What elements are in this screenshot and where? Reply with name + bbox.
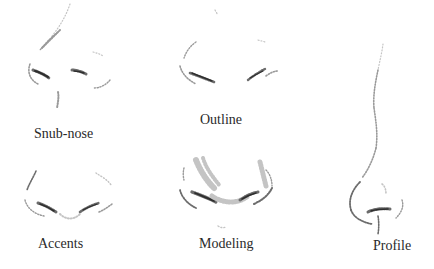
accents-drawing <box>25 171 112 219</box>
modeling-label: Modeling <box>199 237 253 251</box>
outline-drawing <box>180 10 278 84</box>
outline-label: Outline <box>200 113 242 127</box>
nose-sketch-figure: Snub-nose Outline Accents Modeling Profi… <box>0 0 434 269</box>
snub-nose-drawing <box>29 4 110 108</box>
profile-label: Profile <box>373 239 411 253</box>
profile-drawing <box>350 44 403 234</box>
modeling-drawing <box>180 158 272 228</box>
accents-label: Accents <box>38 237 83 251</box>
snub-nose-label: Snub-nose <box>34 127 93 141</box>
